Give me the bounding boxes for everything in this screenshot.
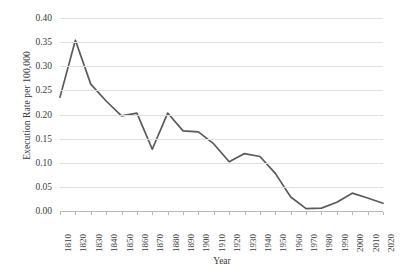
x-tick-mark: [60, 212, 61, 215]
x-tick-label: 1940: [264, 234, 273, 252]
plot-area: [60, 18, 383, 211]
x-tick-label: 1830: [95, 234, 104, 252]
x-tick-mark: [198, 212, 199, 215]
x-tick-mark: [75, 212, 76, 215]
x-tick-mark: [137, 212, 138, 215]
x-tick-label: 1960: [295, 234, 304, 252]
x-tick-mark: [368, 212, 369, 215]
x-tick-label: 1870: [156, 234, 165, 252]
x-tick-label: 1900: [202, 234, 211, 252]
x-tick-label: 1850: [126, 234, 135, 252]
x-tick-label: 1810: [64, 234, 73, 252]
x-tick-mark: [122, 212, 123, 215]
gridline: [60, 90, 383, 91]
x-tick-mark: [337, 212, 338, 215]
x-tick-label: 2000: [356, 234, 365, 252]
x-axis-tick-labels: 1810182018301840185018601870188018901900…: [60, 212, 383, 256]
x-tick-label: 2010: [372, 234, 381, 252]
x-tick-label: 1820: [79, 234, 88, 252]
y-axis-tick-labels: 0.000.050.100.150.200.250.300.350.40: [0, 18, 56, 211]
x-tick-mark: [275, 212, 276, 215]
x-tick-label: 1970: [310, 234, 319, 252]
x-tick-mark: [383, 212, 384, 215]
x-tick-label: 1950: [279, 234, 288, 252]
x-tick-label: 1930: [249, 234, 258, 252]
y-tick-label: 0.00: [4, 206, 56, 216]
x-tick-mark: [91, 212, 92, 215]
x-tick-mark: [306, 212, 307, 215]
y-tick-label: 0.25: [4, 85, 56, 95]
x-tick-label: 1860: [141, 234, 150, 252]
gridline: [60, 139, 383, 140]
x-tick-mark: [214, 212, 215, 215]
x-tick-mark: [245, 212, 246, 215]
y-tick-label: 0.35: [4, 37, 56, 47]
x-tick-mark: [168, 212, 169, 215]
y-tick-label: 0.20: [4, 110, 56, 120]
x-tick-mark: [183, 212, 184, 215]
line-chart: Execution Rate per 100,000 0.000.050.100…: [0, 0, 406, 279]
y-tick-label: 0.40: [4, 13, 56, 23]
x-tick-label: 1880: [172, 234, 181, 252]
x-tick-label: 1990: [341, 234, 350, 252]
x-tick-mark: [229, 212, 230, 215]
y-tick-label: 0.05: [4, 182, 56, 192]
y-tick-label: 0.30: [4, 61, 56, 71]
x-tick-mark: [106, 212, 107, 215]
x-tick-label: 2020: [387, 234, 396, 252]
gridline: [60, 163, 383, 164]
x-tick-label: 1840: [110, 234, 119, 252]
x-tick-mark: [152, 212, 153, 215]
gridline: [60, 42, 383, 43]
x-tick-mark: [352, 212, 353, 215]
x-tick-label: 1910: [218, 234, 227, 252]
x-tick-mark: [260, 212, 261, 215]
x-axis-title: Year: [60, 256, 384, 266]
gridline: [60, 115, 383, 116]
x-tick-mark: [321, 212, 322, 215]
x-tick-label: 1920: [233, 234, 242, 252]
gridline: [60, 187, 383, 188]
y-tick-label: 0.10: [4, 158, 56, 168]
gridline: [60, 66, 383, 67]
gridline: [60, 18, 383, 19]
y-tick-label: 0.15: [4, 134, 56, 144]
x-tick-label: 1980: [325, 234, 334, 252]
x-tick-mark: [291, 212, 292, 215]
x-tick-label: 1890: [187, 234, 196, 252]
